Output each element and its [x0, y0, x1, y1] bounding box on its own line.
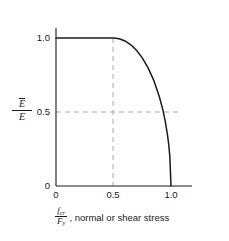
y-axis-label-numerator-symbol: E — [19, 98, 25, 109]
x-axis-label-denominator-subscript: y — [63, 219, 66, 226]
x-tick-label-1.0: 1.0 — [164, 190, 177, 200]
x-axis-label-caption: , normal or shear stress — [69, 210, 169, 223]
y-axis-label-numerator: E — [12, 98, 32, 111]
x-tick-label-0.5: 0.5 — [106, 190, 119, 200]
x-axis-label-denominator: Fy — [55, 217, 67, 227]
y-tick-label-0: 0 — [38, 181, 50, 191]
y-axis-label: E E — [12, 98, 32, 122]
y-tick-label-1.0: 1.0 — [30, 33, 50, 43]
chart-figure: 0 0.5 1.0 0 0.5 1.0 E E fcr Fy , normal … — [0, 0, 229, 241]
x-axis-label-denominator-symbol: F — [57, 216, 63, 226]
x-axis-label: fcr Fy , normal or shear stress — [55, 206, 169, 227]
x-axis-label-numerator-subscript: cr — [60, 209, 65, 216]
x-tick-label-0: 0 — [53, 190, 58, 200]
y-tick-label-0.5: 0.5 — [30, 107, 50, 117]
y-axis-label-denominator: E — [12, 111, 32, 123]
x-axis-label-fraction: fcr Fy — [55, 206, 67, 227]
